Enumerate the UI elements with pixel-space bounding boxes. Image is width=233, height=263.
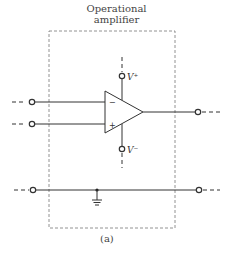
- inverting-input: [12, 99, 105, 104]
- output-terminal: [143, 109, 220, 114]
- v-minus-supply: [119, 124, 124, 168]
- op-amp-diagram: − + V⁺ V⁻: [0, 0, 233, 263]
- figure-caption: (a): [100, 233, 114, 244]
- ground-icon: [92, 188, 102, 205]
- ground-rail: [14, 187, 220, 192]
- v-plus-label: V⁺: [127, 72, 138, 82]
- v-plus-supply: [119, 57, 124, 100]
- plus-sign: +: [109, 121, 116, 130]
- noninverting-input: [12, 121, 105, 126]
- v-minus-label: V⁻: [127, 145, 138, 155]
- minus-sign: −: [109, 98, 116, 107]
